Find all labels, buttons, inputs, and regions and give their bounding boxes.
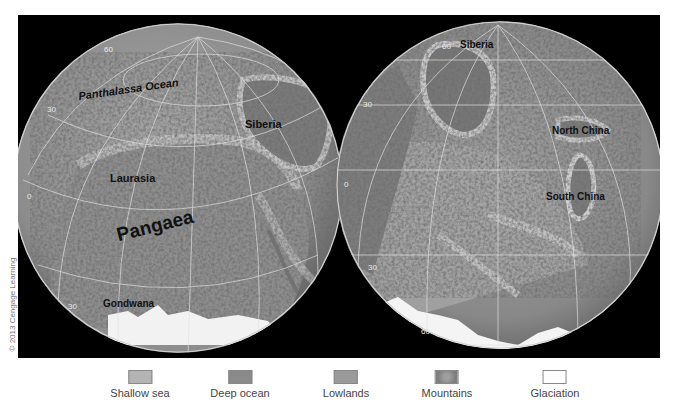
swatch-lowlands: [334, 370, 358, 384]
label-north-china: North China: [552, 125, 609, 136]
legend-label: Lowlands: [323, 387, 369, 399]
latitude-label: 60: [442, 42, 451, 51]
label-laurasia: Laurasia: [110, 172, 155, 184]
label-siberia-left: Siberia: [245, 118, 282, 130]
left-globe: [18, 23, 343, 355]
latitude-label: 60: [421, 327, 430, 336]
map-frame: Panthalassa Ocean Siberia Laurasia Panga…: [18, 15, 660, 358]
swatch-glaciation: [543, 370, 567, 384]
latitude-label: 30: [363, 100, 372, 109]
map-legend: Shallow sea Deep ocean Lowlands Mountain…: [0, 370, 674, 400]
legend-item-deep-ocean: Deep ocean: [210, 370, 269, 399]
label-gondwana: Gondwana: [103, 298, 154, 309]
legend-label: Glaciation: [531, 387, 580, 399]
legend-item-shallow-sea: Shallow sea: [110, 370, 169, 399]
right-globe: [336, 21, 660, 355]
latitude-label: 0: [27, 192, 31, 201]
label-south-china: South China: [546, 191, 605, 202]
legend-label: Mountains: [422, 387, 473, 399]
legend-label: Deep ocean: [210, 387, 269, 399]
latitude-label: 30: [68, 302, 77, 311]
legend-item-glaciation: Glaciation: [531, 370, 580, 399]
label-siberia-right: Siberia: [460, 39, 493, 50]
copyright-text: © 2013 Cengage Learning: [8, 255, 17, 355]
swatch-mountains: [435, 370, 459, 384]
latitude-label: 0: [344, 180, 348, 189]
legend-item-mountains: Mountains: [422, 370, 473, 399]
latitude-label: 60: [104, 45, 113, 54]
swatch-deep-ocean: [228, 370, 252, 384]
swatch-shallow-sea: [128, 370, 152, 384]
legend-item-lowlands: Lowlands: [323, 370, 369, 399]
latitude-label: 30: [368, 263, 377, 272]
latitude-label: 30: [47, 105, 56, 114]
legend-label: Shallow sea: [110, 387, 169, 399]
